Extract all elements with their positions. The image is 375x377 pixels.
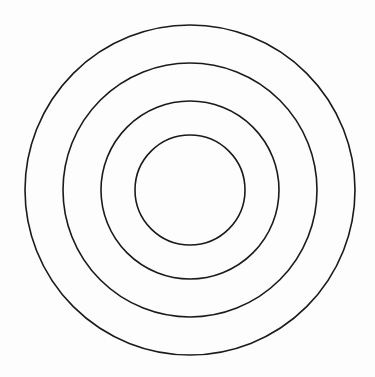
- ring-1-outermost: [25, 25, 355, 355]
- diagram-canvas: [0, 0, 375, 377]
- concentric-circles-diagram: [0, 0, 375, 377]
- ring-3: [101, 101, 279, 279]
- ring-4-innermost: [135, 135, 245, 245]
